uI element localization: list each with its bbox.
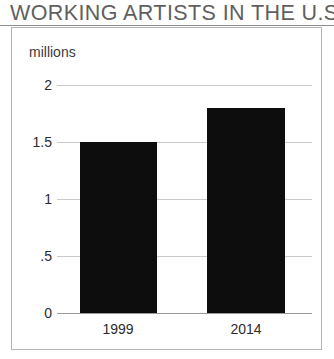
y-tick-label-0-5: .5 bbox=[8, 249, 52, 263]
gridline-2 bbox=[57, 85, 312, 86]
y-tick-label-0: 0 bbox=[8, 306, 52, 320]
bar-2014[interactable] bbox=[207, 108, 285, 313]
x-tick-label-1999: 1999 bbox=[63, 321, 173, 337]
y-tick-label-2: 2 bbox=[8, 78, 52, 92]
axis-baseline-0 bbox=[57, 313, 312, 314]
y-tick-label-1-5: 1.5 bbox=[8, 135, 52, 149]
x-tick-label-2014: 2014 bbox=[191, 321, 301, 337]
y-tick-label-1: 1 bbox=[8, 192, 52, 206]
chart-figure: WORKING ARTISTS IN THE U.S. millions 2 1… bbox=[0, 0, 334, 359]
plot-area: 2 1.5 1 .5 0 1999 2014 bbox=[0, 0, 334, 359]
bar-1999[interactable] bbox=[80, 142, 157, 313]
